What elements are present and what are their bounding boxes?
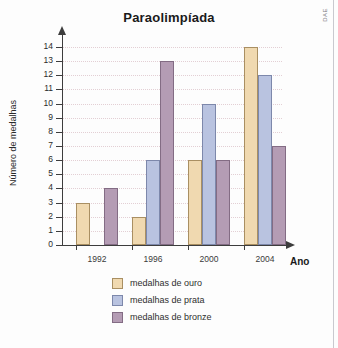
y-axis-tick-label: 11 <box>31 83 53 93</box>
y-axis-tick <box>56 188 62 189</box>
y-axis-tick <box>56 89 62 90</box>
y-axis-tick-label: 4 <box>31 182 53 192</box>
y-axis-tick <box>56 146 62 147</box>
bar-2000-medalhas-de-ouro <box>188 160 202 245</box>
y-axis-tick <box>56 61 62 62</box>
bar-2004-medalhas-de-ouro <box>244 47 258 245</box>
legend-swatch-bronze <box>112 312 123 323</box>
bar-2000-medalhas-de-prata <box>202 104 216 245</box>
legend-label-prata: medalhas de prata <box>130 295 205 305</box>
x-axis-arrow <box>286 241 295 249</box>
legend-label-bronze: medalhas de bronze <box>130 312 212 322</box>
y-axis-arrow <box>58 26 66 35</box>
legend-item-bronze: medalhas de bronze <box>112 310 212 324</box>
y-axis-tick <box>56 160 62 161</box>
y-axis-tick-label: 1 <box>31 225 53 235</box>
legend-item-prata: medalhas de prata <box>112 293 212 307</box>
y-axis-tick-label: 14 <box>31 41 53 51</box>
y-axis-tick <box>56 75 62 76</box>
x-axis-tick-label: 2004 <box>242 254 288 264</box>
chart-legend: medalhas de ouro medalhas de prata medal… <box>112 276 212 324</box>
x-axis-line <box>62 245 287 246</box>
x-axis-tick <box>76 245 77 250</box>
y-axis-tick <box>56 118 62 119</box>
bar-1996-medalhas-de-bronze <box>160 61 174 245</box>
x-axis-tick <box>244 245 245 250</box>
x-axis-tick <box>188 245 189 250</box>
y-axis-tick-label: 9 <box>31 112 53 122</box>
bar-1996-medalhas-de-ouro <box>132 217 146 245</box>
y-axis-tick-label: 8 <box>31 126 53 136</box>
bar-1992-medalhas-de-bronze <box>104 188 118 245</box>
y-axis-tick <box>56 47 62 48</box>
x-axis-label: Ano <box>290 256 309 267</box>
y-axis-tick-label: 3 <box>31 197 53 207</box>
legend-item-ouro: medalhas de ouro <box>112 276 212 290</box>
legend-swatch-prata <box>112 295 123 306</box>
y-axis-tick-label: 7 <box>31 140 53 150</box>
y-axis-tick <box>56 203 62 204</box>
bar-2004-medalhas-de-prata <box>258 75 272 245</box>
y-axis-tick <box>56 231 62 232</box>
legend-label-ouro: medalhas de ouro <box>130 278 202 288</box>
y-axis-tick-label: 10 <box>31 98 53 108</box>
y-axis-line <box>62 34 63 245</box>
y-axis-tick <box>56 245 62 246</box>
y-axis-tick-label: 2 <box>31 211 53 221</box>
x-axis-tick <box>132 245 133 250</box>
y-axis-tick <box>56 104 62 105</box>
bar-1996-medalhas-de-prata <box>146 160 160 245</box>
y-axis-tick <box>56 132 62 133</box>
x-axis-tick-label: 2000 <box>186 254 232 264</box>
y-axis-label: Número de medalhas <box>6 78 20 208</box>
bar-2000-medalhas-de-bronze <box>216 160 230 245</box>
legend-swatch-ouro <box>112 278 123 289</box>
y-axis-tick-label: 5 <box>31 168 53 178</box>
y-axis-tick-label: 6 <box>31 154 53 164</box>
bar-2004-medalhas-de-bronze <box>272 146 286 245</box>
x-axis-tick-label: 1992 <box>74 254 120 264</box>
x-axis-tick-label: 1996 <box>130 254 176 264</box>
y-axis-tick-label: 12 <box>31 69 53 79</box>
chart-figure: DAE Paraolimpíada Número de medalhas Ano… <box>0 0 338 348</box>
page-rule <box>333 0 334 348</box>
y-axis-tick-label: 0 <box>31 239 53 249</box>
y-axis-tick <box>56 174 62 175</box>
y-axis-tick <box>56 217 62 218</box>
bar-1992-medalhas-de-ouro <box>76 203 90 245</box>
y-axis-tick-label: 13 <box>31 55 53 65</box>
chart-title: Paraolimpíada <box>0 10 338 25</box>
